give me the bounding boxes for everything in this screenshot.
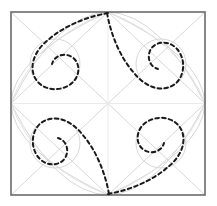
geometric-figure	[0, 0, 217, 206]
figure-container	[0, 0, 217, 206]
